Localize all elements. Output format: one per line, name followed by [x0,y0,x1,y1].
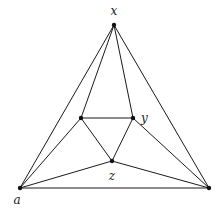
node-y [131,116,135,120]
node-label-z: z [108,169,116,183]
node-a [18,186,22,190]
node-label-x: x [111,4,118,18]
edge-x-p [81,25,114,118]
edge-x-y [114,25,133,118]
edge-x-b [114,25,209,188]
edges-group [20,25,209,188]
node-label-y: y [140,111,148,125]
node-x [112,23,116,27]
edge-p-z [81,118,112,161]
node-b [207,186,211,190]
node-p [79,116,83,120]
edge-a-p [20,118,81,188]
edge-x-a [20,25,114,188]
labels-group: xayz [13,4,148,207]
node-label-a: a [13,193,20,207]
edge-y-z [112,118,133,161]
graph-diagram: xayz [0,0,224,212]
node-z [110,159,114,163]
nodes-group [18,23,211,190]
